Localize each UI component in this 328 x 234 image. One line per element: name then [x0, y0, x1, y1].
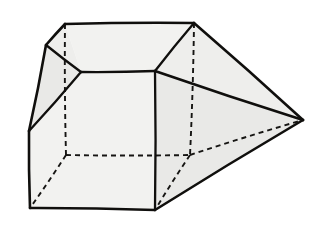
figure-container	[0, 0, 328, 234]
edge-left-lower-edge	[29, 131, 30, 208]
edge-inner-top-horizontal	[81, 71, 155, 72]
edge-inner-vertical	[155, 71, 156, 210]
polyhedron-drawing	[0, 0, 328, 234]
edge-top-ridge	[65, 23, 194, 24]
